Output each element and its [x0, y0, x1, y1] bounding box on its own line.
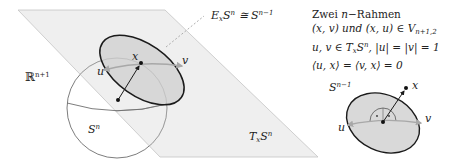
text-line-1: Zwei n−Rahmen: [312, 8, 440, 22]
text-line-2: (x, v) und (x, u) ∈ Vn+1,2: [312, 22, 440, 40]
text-line-4: ⟨u, x⟩ = ⟨v, x⟩ = 0: [312, 59, 440, 73]
label-sphere: Sn: [88, 121, 100, 136]
origin-point: [116, 98, 120, 102]
frame-definition-text: Zwei n−Rahmen (x, v) und (x, u) ∈ Vn+1,2…: [312, 8, 440, 72]
inset-label-u: u: [338, 122, 345, 134]
label-tangent-plane: TxSn: [249, 128, 272, 146]
label-equator: ExSn ≅ Sn−1: [211, 7, 273, 25]
point-x: [139, 61, 143, 65]
label-point-x: x: [132, 51, 138, 63]
inset-label-v: v: [425, 113, 431, 125]
label-vec-v: v: [182, 55, 188, 67]
inset-label-x: x: [412, 80, 418, 92]
inset-origin: [381, 120, 385, 124]
inset-point-x: [404, 86, 408, 90]
inset-label-sphere: Sn−1: [329, 79, 351, 94]
text-line-3: u, v ∈ TxSn, |u| = |v| = 1: [312, 39, 440, 59]
label-ambient-space: ℝn+1: [25, 69, 50, 83]
label-vec-u: u: [97, 66, 104, 78]
